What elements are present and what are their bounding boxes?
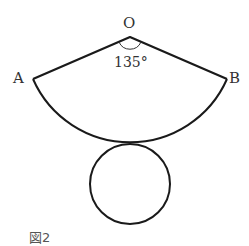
angle-mark (119, 42, 141, 49)
label-b: B (229, 71, 240, 86)
figure-2: O A B 135° 図2 (0, 0, 249, 246)
label-o: O (123, 16, 135, 31)
angle-label: 135° (114, 55, 148, 69)
figure-caption: 図2 (29, 231, 50, 244)
sector-arc (33, 79, 227, 142)
base-circle (90, 144, 170, 224)
label-a: A (13, 71, 24, 86)
sector-and-circle-diagram (0, 0, 249, 246)
